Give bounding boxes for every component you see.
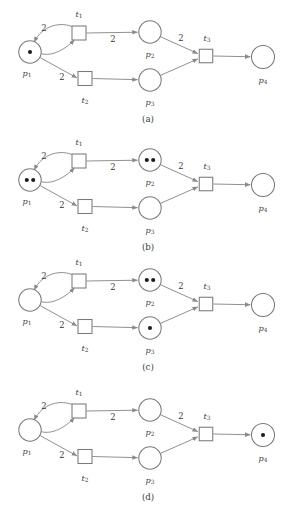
transition-t3[interactable] (199, 177, 213, 191)
label-t1: t1 (75, 137, 82, 147)
petri-net-panel-c: p1p2p3p4t1t2t32222(c) (19, 257, 275, 372)
label-p2: p2 (146, 49, 155, 59)
arc-p3-to-t3 (161, 437, 198, 453)
arc-weight-t1-to-p1: 2 (41, 23, 46, 33)
arc-weight-t1-to-p2: 2 (110, 282, 115, 292)
transition-t3[interactable] (199, 49, 213, 63)
petri-net-panel-d: p1p2p3p4t1t2t32222(d) (19, 387, 275, 502)
place-p4[interactable] (252, 46, 275, 69)
transition-t2[interactable] (78, 320, 92, 334)
arc-t3-to-p4 (213, 56, 250, 57)
transition-t3[interactable] (199, 427, 213, 441)
transition-t1[interactable] (72, 404, 86, 418)
place-p1[interactable] (19, 419, 41, 441)
transition-t1[interactable] (72, 274, 86, 288)
arc-p3-to-t3 (161, 59, 198, 75)
label-t1: t1 (75, 9, 82, 19)
label-p3: p3 (146, 225, 155, 235)
arc-t3-to-p4 (213, 184, 250, 185)
arc-t1-to-p1 (34, 273, 74, 291)
place-p4[interactable] (252, 294, 275, 317)
label-p2: p2 (146, 297, 155, 307)
token-p2 (145, 278, 149, 282)
arc-weight-t1-to-p1: 2 (41, 151, 46, 161)
token-p2 (151, 158, 155, 162)
arc-p1-to-t1 (41, 40, 75, 55)
arc-weight-t1-to-p2: 2 (110, 162, 115, 172)
arc-weight-t1-to-p2: 2 (110, 34, 115, 44)
place-p2[interactable] (139, 269, 161, 291)
arc-t3-to-p4 (213, 304, 250, 305)
label-p1: p1 (23, 446, 32, 456)
label-p3: p3 (146, 475, 155, 485)
petri-net-panel-b: p1p2p3p4t1t2t32222(b) (19, 137, 275, 252)
place-p1[interactable] (19, 169, 41, 191)
token-p2 (145, 158, 149, 162)
transition-t2[interactable] (78, 72, 92, 86)
arc-weight-p2-to-t3: 2 (178, 411, 183, 421)
place-p2[interactable] (139, 21, 161, 43)
label-p4: p4 (259, 75, 268, 85)
arc-weight-t1-to-p2: 2 (110, 412, 115, 422)
arc-p1-to-t1 (41, 418, 75, 433)
panel-caption-d: (d) (142, 492, 154, 502)
transition-t3[interactable] (199, 297, 213, 311)
label-t3: t3 (203, 33, 210, 43)
transition-t1[interactable] (72, 26, 86, 40)
label-t2: t2 (81, 473, 88, 483)
place-p2[interactable] (139, 399, 161, 421)
transition-t2[interactable] (78, 450, 92, 464)
token-p1 (25, 178, 29, 182)
place-p3[interactable] (139, 447, 161, 469)
label-p1: p1 (23, 68, 32, 78)
label-t3: t3 (203, 281, 210, 291)
label-p3: p3 (146, 345, 155, 355)
label-p1: p1 (23, 316, 32, 326)
label-p2: p2 (146, 177, 155, 187)
token-p1 (28, 50, 32, 54)
arc-t3-to-p4 (213, 434, 250, 435)
arc-weight-p1-to-t2: 2 (59, 72, 64, 82)
place-p4[interactable] (252, 174, 275, 197)
arc-weight-p2-to-t3: 2 (178, 281, 183, 291)
arc-p1-to-t1 (41, 168, 75, 183)
arc-t1-to-p2 (86, 160, 137, 161)
token-p2 (151, 278, 155, 282)
arc-weight-p1-to-t2: 2 (59, 450, 64, 460)
label-p3: p3 (146, 97, 155, 107)
place-p2[interactable] (139, 149, 161, 171)
place-p3[interactable] (139, 197, 161, 219)
token-p4 (261, 433, 265, 437)
label-t2: t2 (81, 223, 88, 233)
label-p4: p4 (259, 203, 268, 213)
transition-t2[interactable] (78, 200, 92, 214)
panel-caption-b: (b) (142, 242, 154, 252)
arc-weight-p1-to-t2: 2 (59, 200, 64, 210)
arc-p3-to-t3 (161, 187, 198, 203)
arc-weight-p2-to-t3: 2 (178, 161, 183, 171)
label-t3: t3 (203, 161, 210, 171)
label-t2: t2 (81, 95, 88, 105)
token-p1 (31, 178, 35, 182)
label-t2: t2 (81, 343, 88, 353)
arc-t1-to-p1 (34, 403, 74, 421)
petri-net-canvas: p1p2p3p4t1t2t32222(a)p1p2p3p4t1t2t32222(… (0, 0, 290, 515)
label-t3: t3 (203, 411, 210, 421)
arc-t1-to-p1 (34, 153, 74, 171)
panel-caption-a: (a) (142, 114, 154, 124)
label-p4: p4 (259, 453, 268, 463)
arc-p1-to-t1 (41, 288, 75, 303)
arc-weight-p2-to-t3: 2 (178, 33, 183, 43)
label-p1: p1 (23, 196, 32, 206)
arc-t1-to-p2 (86, 410, 137, 411)
petri-net-panel-a: p1p2p3p4t1t2t32222(a) (19, 9, 275, 124)
place-p3[interactable] (139, 69, 161, 91)
token-p3 (148, 326, 152, 330)
arc-t2-to-p3 (92, 207, 137, 208)
label-p2: p2 (146, 427, 155, 437)
arc-t2-to-p3 (92, 327, 137, 328)
arc-t1-to-p2 (86, 32, 137, 33)
transition-t1[interactable] (72, 154, 86, 168)
place-p1[interactable] (19, 289, 41, 311)
label-t1: t1 (75, 387, 82, 397)
